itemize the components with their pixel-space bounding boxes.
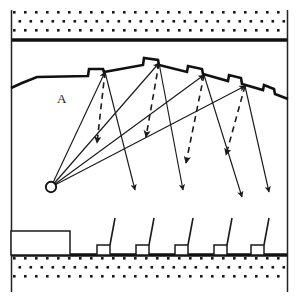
stipple-dot <box>52 266 55 269</box>
stipple-dot <box>46 275 49 278</box>
stipple-dot <box>217 20 220 23</box>
stipple-dot <box>41 266 44 269</box>
antenna-base-box <box>214 245 227 255</box>
stipple-dot <box>178 29 181 32</box>
stipple-dot <box>57 257 60 260</box>
stipple-dot <box>13 11 16 14</box>
stipple-dot <box>261 266 264 269</box>
stipple-dot <box>167 275 170 278</box>
stipple-dot <box>283 266 286 269</box>
stipple-dot <box>200 29 203 32</box>
stipple-dot <box>46 11 49 14</box>
stipple-dot <box>244 275 247 278</box>
stipple-dot <box>129 20 132 23</box>
wave-source-point <box>46 182 56 192</box>
stipple-dot <box>211 29 214 32</box>
stipple-dot <box>112 29 115 32</box>
stipple-dot <box>200 275 203 278</box>
figure-container: A <box>0 0 297 302</box>
stipple-dot <box>57 275 60 278</box>
stipple-dot <box>13 257 16 260</box>
antenna-base-box <box>175 245 188 255</box>
stipple-dot <box>24 11 27 14</box>
stipple-dot <box>46 257 49 260</box>
stipple-dot <box>222 11 225 14</box>
stipple-dot <box>129 266 132 269</box>
stipple-dot <box>90 257 93 260</box>
stipple-dot <box>74 266 77 269</box>
stipple-dot <box>68 11 71 14</box>
stipple-dot <box>19 266 22 269</box>
stipple-dot <box>123 257 126 260</box>
stipple-dot <box>228 266 231 269</box>
stipple-dot <box>57 11 60 14</box>
stipple-dot <box>244 29 247 32</box>
stipple-dot <box>233 275 236 278</box>
stipple-dot <box>277 257 280 260</box>
stipple-dot <box>156 11 159 14</box>
stipple-dot <box>145 257 148 260</box>
stipple-dot <box>90 275 93 278</box>
stipple-dot <box>184 266 187 269</box>
stipple-dot <box>178 275 181 278</box>
stipple-dot <box>41 20 44 23</box>
stipple-dot <box>178 257 181 260</box>
stipple-dot <box>272 266 275 269</box>
stipple-dot <box>189 29 192 32</box>
stipple-dot <box>24 275 27 278</box>
stipple-dot <box>222 257 225 260</box>
stipple-dot <box>200 257 203 260</box>
stipple-dot <box>255 275 258 278</box>
stipple-dot <box>244 11 247 14</box>
stipple-dot <box>211 257 214 260</box>
stipple-dot <box>13 275 16 278</box>
ray-diagram-canvas: A <box>0 0 297 302</box>
stipple-dot <box>140 266 143 269</box>
stipple-dot <box>156 275 159 278</box>
stipple-dot <box>151 20 154 23</box>
stipple-dot <box>211 11 214 14</box>
stipple-dot <box>123 29 126 32</box>
stipple-dot <box>156 257 159 260</box>
stipple-dot <box>233 257 236 260</box>
stipple-dot <box>63 20 66 23</box>
stipple-dot <box>35 11 38 14</box>
stipple-dot <box>184 20 187 23</box>
stipple-dot <box>162 20 165 23</box>
stipple-dot <box>96 266 99 269</box>
stipple-dot <box>30 20 33 23</box>
stipple-dot <box>24 257 27 260</box>
stipple-dot <box>167 257 170 260</box>
stipple-dot <box>112 275 115 278</box>
region-label-a: A <box>57 91 67 106</box>
stipple-dot <box>239 20 242 23</box>
stipple-dot <box>123 11 126 14</box>
stipple-dot <box>189 275 192 278</box>
stipple-dot <box>162 266 165 269</box>
stipple-dot <box>277 11 280 14</box>
stipple-dot <box>107 266 110 269</box>
stipple-dot <box>250 266 253 269</box>
stipple-dot <box>112 257 115 260</box>
stipple-dot <box>90 29 93 32</box>
stipple-dot <box>90 11 93 14</box>
antenna-base-box <box>136 245 149 255</box>
stipple-dot <box>52 20 55 23</box>
antenna-base-box <box>97 245 110 255</box>
stipple-dot <box>222 29 225 32</box>
stipple-dot <box>74 20 77 23</box>
stipple-dot <box>85 20 88 23</box>
stipple-dot <box>217 266 220 269</box>
stipple-dot <box>101 257 104 260</box>
stipple-dot <box>145 29 148 32</box>
stipple-dot <box>195 266 198 269</box>
stipple-dot <box>134 29 137 32</box>
stipple-dot <box>167 11 170 14</box>
stipple-dot <box>63 266 66 269</box>
stipple-dot <box>266 11 269 14</box>
stipple-dot <box>206 266 209 269</box>
antenna-base-box <box>251 245 264 255</box>
stipple-dot <box>118 20 121 23</box>
stipple-dot <box>167 29 170 32</box>
stipple-dot <box>173 266 176 269</box>
